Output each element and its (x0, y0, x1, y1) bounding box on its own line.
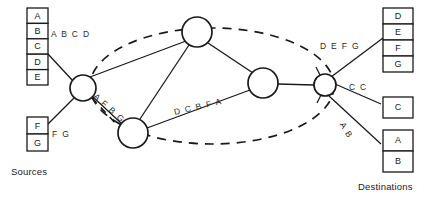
destination-stack-c (383, 97, 413, 118)
destination-cell-c (383, 97, 413, 118)
network-diagram: A B C D E F G D E F G C A B A B C D F G … (0, 0, 424, 199)
source-cell-c (27, 39, 48, 54)
destination-cell-b (383, 151, 413, 172)
link-right-node-to-destination-ab (329, 96, 381, 144)
source-stack-fg (27, 117, 48, 151)
link-right-node-stub-upper (316, 67, 320, 75)
router-node-top[interactable] (182, 17, 212, 47)
source-cell-d (27, 54, 48, 69)
destination-cell-a (383, 130, 413, 151)
router-node-right[interactable] (314, 74, 336, 96)
destination-cell-g (383, 56, 413, 72)
link-middle-node-to-right-node (278, 84, 314, 85)
sources-caption: Sources (11, 166, 47, 177)
source-cell-g (27, 134, 48, 151)
edge-label-fg: F G (52, 129, 70, 139)
link-top-node-to-middle-node (208, 43, 253, 73)
source-cell-b (27, 23, 48, 38)
router-node-middle[interactable] (248, 68, 278, 98)
link-source-fg-to-left-node (48, 97, 75, 124)
destination-cell-d (383, 8, 413, 24)
source-cell-a (27, 8, 48, 23)
link-right-node-stub-lower (317, 95, 321, 103)
destination-stack-ab (383, 130, 413, 172)
destinations-caption: Destinations (358, 181, 413, 192)
source-stack-abcde (27, 8, 48, 85)
source-cell-e (27, 70, 48, 85)
destination-cell-e (383, 24, 413, 40)
source-cell-f (27, 117, 48, 134)
edge-label-cc: C C (349, 82, 368, 92)
destination-cell-f (383, 40, 413, 56)
edge-label-defg: D E F G (320, 41, 360, 51)
edge-label-abcd: A B C D (51, 29, 90, 39)
destination-stack-defg (383, 8, 413, 72)
link-source-abcde-to-left-node (48, 54, 73, 81)
